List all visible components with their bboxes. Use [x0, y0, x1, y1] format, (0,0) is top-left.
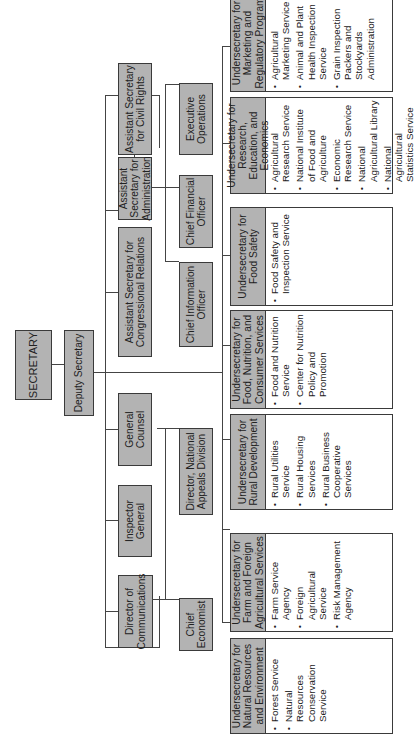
undersecretary-bus: [222, 46, 223, 623]
undersecretary-research-education-economics: Undersecretary for Research, Education, …: [230, 97, 393, 194]
agency-item: Animal and Plant Health Inspection Servi…: [294, 0, 328, 88]
agency-item: Rural Housing Services: [294, 417, 316, 506]
row2-connector-left: [152, 599, 165, 600]
undersecretary-title: Undersecretary for Marketing and Regulat…: [231, 0, 266, 91]
undersecretary-title: Undersecretary for Food Safety: [231, 208, 266, 305]
us-tick-4: [222, 255, 230, 256]
undersecretary-food-nutrition-consumer: Undersecretary for Food, Nutrition, and …: [230, 310, 393, 409]
row2-bus-left: [165, 428, 166, 600]
agency-item: Food and Nutrition Service: [269, 313, 291, 405]
tick-cong: [105, 292, 118, 293]
undersecretary-title: Undersecretary for Rural Development: [231, 415, 266, 509]
staff-row1-bus: [105, 95, 106, 648]
row2-tick-cio: [165, 261, 179, 262]
row2-tick-cfo: [165, 187, 179, 188]
agency-list: Farm Service Agency Foreign Agricultural…: [269, 536, 356, 628]
agency-item: Food Safety and Inspection Service: [269, 210, 291, 302]
asst-sec-civil-rights-label: Assistant Secretary for Civil Rights: [124, 64, 147, 154]
deputy-secretary-box: Deputy Secretary: [64, 330, 94, 416]
chief-financial-officer-box: Chief Financial Officer: [179, 175, 213, 248]
inspector-general-box: Inspector General: [118, 485, 152, 557]
director-national-appeals-division-label: Director, National Appeals Division: [185, 429, 208, 514]
agency-list: Forest Service Natural Resources Conserv…: [269, 641, 331, 730]
asst-sec-administration-label: Assistant Secretary for Administration: [118, 156, 153, 221]
agency-item: Farm Service Agency: [269, 536, 291, 628]
inspector-general-label: Inspector General: [124, 486, 147, 556]
agency-item: Agricultural Marketing Service: [269, 0, 291, 88]
agency-item: Natural Resources Conservation Service: [283, 641, 328, 730]
agency-item: Rural Utilities Service: [269, 417, 291, 506]
agency-list: Food Safety and Inspection Service: [269, 210, 294, 302]
undersecretary-marketing-regulatory: Undersecretary for Marketing and Regulat…: [230, 0, 393, 92]
row2-from-admin: [152, 187, 165, 188]
director-national-appeals-division-box: Director, National Appeals Division: [179, 428, 213, 515]
asst-sec-civil-rights-box: Assistant Secretary for Civil Rights: [118, 63, 152, 155]
us-tick-1: [222, 529, 230, 530]
agency-item: Economic Research Service: [331, 100, 353, 190]
director-of-communications-label: Director of Communications: [124, 574, 147, 650]
undersecretary-rural-development: Undersecretary for Rural Development Rur…: [230, 414, 393, 510]
staff-row1-bottom-right: [159, 95, 160, 148]
us-tick-3: [222, 345, 230, 346]
us-tick-2: [222, 439, 230, 440]
asst-sec-congressional-relations-label: Assistant Secretary for Congressional Re…: [124, 228, 147, 356]
director-of-communications-box: Director of Communications: [118, 575, 153, 648]
tick-ig: [105, 520, 118, 521]
agency-item: Forest Service: [269, 641, 280, 730]
agency-item: National Agricultural Statistics Service: [382, 100, 416, 190]
undersecretary-farm-foreign-agricultural: Undersecretary for Farm and Foreign Agri…: [230, 533, 393, 632]
chief-financial-officer-label: Chief Financial Officer: [185, 176, 208, 247]
agency-list: Food and Nutrition Service Center for Nu…: [269, 313, 331, 405]
agency-item: Foreign Agricultural Service: [294, 536, 328, 628]
agency-item: Rural Business Cooperative Services: [320, 417, 354, 506]
asst-sec-administration-box: Assistant Secretary for Administration: [118, 157, 152, 220]
us-tick-0: [222, 622, 230, 623]
tick-gc: [105, 429, 118, 430]
undersecretary-food-safety: Undersecretary for Food Safety Food Safe…: [230, 207, 393, 306]
undersecretary-natural-resources: Undersecretary for Natural Resources and…: [230, 638, 393, 734]
admin-civilrights-link: [134, 155, 135, 157]
deputy-secretary-label: Deputy Secretary: [73, 334, 85, 413]
tick-dircomm-v: [105, 611, 118, 612]
chief-information-officer-label: Chief Information Officer: [185, 263, 208, 346]
general-counsel-box: General Counsel: [118, 393, 152, 466]
row2-tick-nad: [157, 428, 179, 429]
trunk-line: [94, 372, 222, 373]
agency-item: Grain Inspection Packers and Stockyards …: [331, 0, 376, 88]
secretary-label: SECRETARY: [28, 332, 40, 398]
executive-operations-label: Executive Operations: [185, 84, 208, 154]
row2-bus-right: [165, 84, 166, 262]
secretary-box: SECRETARY: [15, 330, 52, 400]
undersecretary-title: Undersecretary for Farm and Foreign Agri…: [231, 534, 266, 631]
chief-information-officer-box: Chief Information Officer: [179, 262, 213, 347]
agency-item: National Agricultural Library: [356, 100, 378, 190]
agency-item: Risk Management Agency: [331, 536, 353, 628]
agency-item: Agricultural Research Service: [269, 100, 291, 190]
agency-list: Agricultural Research Service National I…: [269, 100, 418, 190]
staff-row1-bottom-left: [159, 596, 160, 648]
chief-economist-label: Chief Economist: [185, 599, 208, 650]
executive-operations-box: Executive Operations: [179, 83, 213, 155]
row2-tick-econ: [165, 599, 179, 600]
undersecretary-title: Undersecretary for Food, Nutrition, and …: [231, 311, 266, 408]
general-counsel-label: General Counsel: [124, 394, 147, 465]
agency-item: Center for Nutrition Policy and Promotio…: [294, 313, 328, 405]
row2-tick-exec: [165, 84, 179, 85]
tick-admin: [105, 210, 118, 211]
agency-list: Rural Utilities Service Rural Housing Se…: [269, 417, 356, 506]
chief-economist-box: Chief Economist: [179, 598, 213, 651]
agency-item: National Institute of Food and Agricultu…: [294, 100, 328, 190]
undersecretary-title: Undersecretary for Natural Resources and…: [231, 639, 266, 733]
asst-sec-congressional-relations-box: Assistant Secretary for Congressional Re…: [118, 227, 152, 357]
agency-list: Agricultural Marketing Service Animal an…: [269, 0, 379, 88]
connector-secretary-deputy: [52, 364, 64, 365]
undersecretary-title: Undersecretary for Research, Education, …: [231, 98, 266, 193]
us-tick-6: [222, 46, 230, 47]
